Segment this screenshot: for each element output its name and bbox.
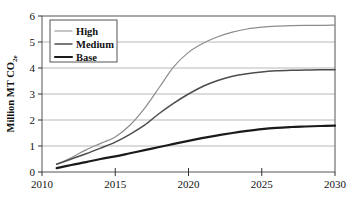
x-tick-label: 2010 [31, 178, 54, 190]
y-label-subscript: 2e [11, 55, 19, 62]
legend-label-medium: Medium [76, 39, 114, 50]
y-tick-label: 5 [30, 36, 36, 48]
y-tick-label: 6 [30, 10, 36, 22]
x-tick-label: 2020 [178, 178, 201, 190]
legend-label-base: Base [76, 52, 97, 63]
x-tick-label: 2030 [324, 178, 347, 190]
line-chart: 0123456 20102015202020252030 Million MT … [0, 0, 349, 205]
x-tick-label: 2015 [104, 178, 127, 190]
y-tick-label: 0 [30, 166, 36, 178]
y-tick-label: 1 [30, 140, 36, 152]
x-tick-label: 2025 [251, 178, 274, 190]
chart-legend: HighMediumBase [50, 20, 117, 63]
y-label-main: Million MT CO [5, 62, 16, 132]
y-tick-label: 2 [30, 114, 36, 126]
legend-label-high: High [76, 26, 98, 37]
y-tick-label: 4 [30, 62, 36, 74]
chart-container: 0123456 20102015202020252030 Million MT … [0, 0, 349, 205]
y-tick-label: 3 [30, 88, 36, 100]
